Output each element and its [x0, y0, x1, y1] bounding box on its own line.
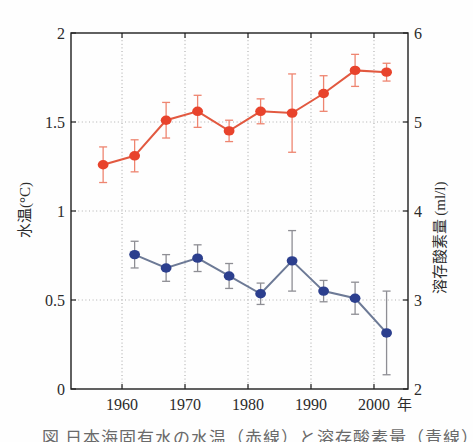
- data-point-marker: [381, 67, 392, 76]
- data-point-marker: [192, 107, 203, 116]
- right-tick-label: 3: [414, 292, 422, 309]
- data-point-marker: [161, 263, 172, 272]
- right-tick-label: 5: [414, 114, 422, 131]
- left-tick-label: 1: [57, 203, 65, 220]
- data-point-marker: [381, 328, 392, 337]
- x-axis-unit-label: 年: [397, 397, 412, 413]
- data-point-marker: [224, 271, 235, 280]
- x-tick-label: 1980: [232, 396, 264, 413]
- data-point-marker: [98, 160, 109, 169]
- figure-caption-cropped: 図 日本海固有水の水温（赤線）と溶存酸素量（青線）の経年変化: [42, 429, 473, 442]
- left-axis-title: 水温(°C): [17, 182, 34, 238]
- x-tick-label: 1990: [295, 396, 327, 413]
- data-point-marker: [350, 294, 361, 303]
- data-point-marker: [350, 66, 361, 75]
- temperature-series: [98, 54, 392, 182]
- right-tick-label: 2: [414, 381, 422, 398]
- data-point-marker: [192, 253, 203, 262]
- data-point-marker: [129, 151, 140, 160]
- left-tick-label: 2: [57, 25, 65, 42]
- series-line: [103, 70, 386, 164]
- data-point-marker: [318, 89, 329, 98]
- data-point-marker: [318, 286, 329, 295]
- data-point-marker: [255, 289, 266, 298]
- data-point-marker: [129, 250, 140, 259]
- figure-page: 00.511.522345619601970198019902000年水温(°C…: [0, 0, 473, 442]
- axis-labels: 00.511.522345619601970198019902000年水温(°C…: [17, 25, 449, 414]
- left-tick-label: 0: [57, 381, 65, 398]
- right-tick-label: 4: [414, 203, 422, 220]
- data-point-marker: [287, 108, 298, 117]
- data-point-marker: [287, 256, 298, 265]
- right-axis-title: 溶存酸素量 (ml/l): [432, 182, 449, 295]
- dual-axis-line-chart: 00.511.522345619601970198019902000年水温(°C…: [0, 0, 473, 428]
- data-point-marker: [224, 126, 235, 135]
- left-tick-label: 1.5: [45, 114, 65, 131]
- right-tick-label: 6: [414, 25, 422, 42]
- oxygen-series: [129, 231, 392, 375]
- left-tick-label: 0.5: [45, 292, 65, 309]
- x-tick-label: 1960: [106, 396, 138, 413]
- x-tick-label: 1970: [169, 396, 201, 413]
- data-point-marker: [255, 107, 266, 116]
- x-tick-label: 2000: [358, 396, 390, 413]
- data-point-marker: [161, 116, 172, 125]
